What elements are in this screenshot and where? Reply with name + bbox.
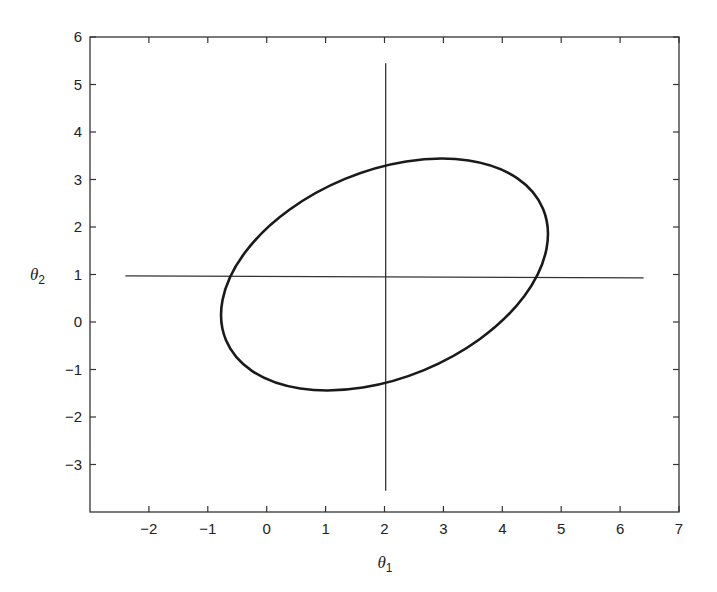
- horizontal-reference-line: [125, 276, 643, 278]
- x-tick-label: 1: [321, 520, 329, 537]
- y-tick-label: 6: [74, 28, 82, 45]
- y-tick-label: −3: [65, 456, 82, 473]
- plot-frame: [90, 37, 679, 512]
- y-tick-labels: −3−2−10123456: [65, 28, 82, 473]
- x-tick-label: 2: [380, 520, 388, 537]
- x-axis-label: θ1: [377, 553, 392, 575]
- x-tick-label: 5: [557, 520, 565, 537]
- y-axis-label: θ2: [30, 265, 45, 287]
- x-tick-label: 3: [439, 520, 447, 537]
- x-tick-label: −2: [140, 520, 157, 537]
- chart-canvas: −2−101234567 −3−2−10123456 θ1 θ2: [0, 0, 717, 592]
- confidence-ellipse: [186, 113, 582, 435]
- y-tick-label: 3: [74, 171, 82, 188]
- x-tick-label: 7: [675, 520, 683, 537]
- y-tick-label: 0: [74, 313, 82, 330]
- y-tick-label: 2: [74, 218, 82, 235]
- x-tick-label: 6: [616, 520, 624, 537]
- x-tick-label: 4: [498, 520, 506, 537]
- y-tick-label: 5: [74, 76, 82, 93]
- y-tick-label: 4: [74, 123, 82, 140]
- y-tick-label: −1: [65, 361, 82, 378]
- y-tick-label: 1: [74, 266, 82, 283]
- x-tick-label: −1: [199, 520, 216, 537]
- x-tick-label: 0: [263, 520, 271, 537]
- axis-ticks: [90, 37, 679, 512]
- y-tick-label: −2: [65, 408, 82, 425]
- x-tick-labels: −2−101234567: [140, 520, 683, 537]
